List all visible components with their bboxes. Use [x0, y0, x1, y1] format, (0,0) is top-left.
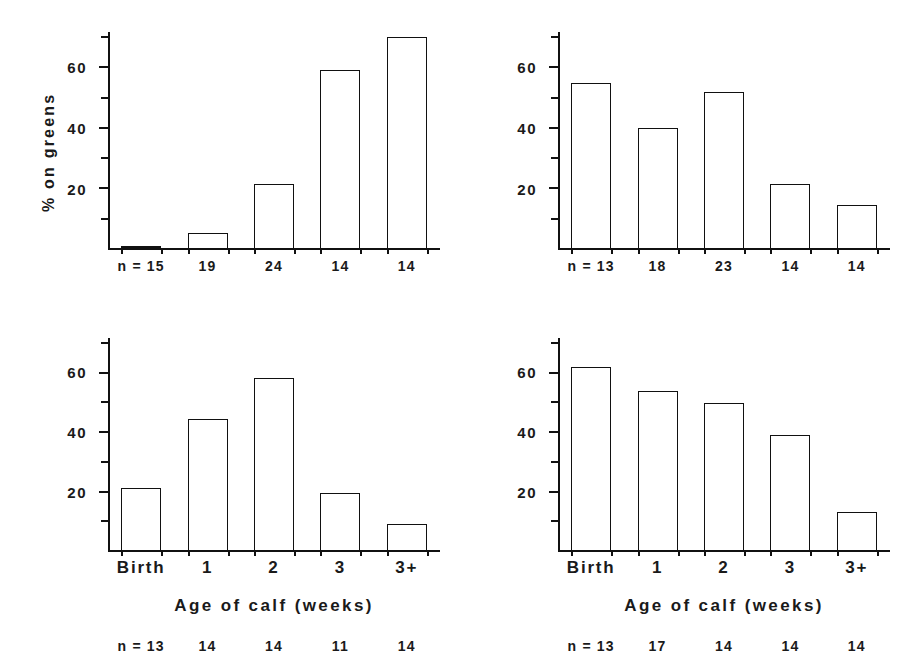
y-tick-30 [101, 461, 108, 463]
plot-area-sheltered: 204060 [558, 338, 890, 552]
bar-1 [638, 128, 678, 248]
x-category-label-2: 2 [268, 558, 279, 578]
x-tick-mark [188, 550, 190, 556]
y-tick-20: 20 [549, 187, 558, 189]
y-tick-label-20: 20 [517, 180, 537, 197]
panel-sheltered: % sheltered 204060 Birth1233+ Age of cal… [450, 300, 900, 668]
y-tick-label-20: 20 [517, 484, 537, 501]
bar-group-raised [558, 32, 890, 248]
x-tick-mark [427, 248, 429, 254]
y-tick-60: 60 [99, 66, 108, 68]
sample-size-3plus: 14 [848, 638, 866, 654]
y-axis-label-on-greens: % on greens [40, 93, 58, 212]
x-tick-mark [744, 550, 746, 556]
y-tick-label-40: 40 [517, 424, 537, 441]
sample-size-3plus: 14 [398, 258, 416, 274]
x-tick-mark [360, 248, 362, 254]
x-tick-mark [704, 550, 706, 556]
sample-size-3: 11 [332, 638, 349, 654]
x-tick-mark [387, 248, 389, 254]
sample-size-3: 14 [331, 258, 349, 274]
x-tick-mark [294, 248, 296, 254]
x-tick-mark [678, 550, 680, 556]
x-axis-line [108, 550, 440, 552]
panel-in-gulley: % in gulley 204060 Birth1233+ Age of cal… [0, 300, 450, 668]
x-tick-mark [877, 248, 879, 254]
y-tick-label-20: 20 [67, 484, 87, 501]
x-tick-mark [638, 550, 640, 556]
x-category-label-3plus: 3+ [845, 558, 868, 578]
sample-size-3: 14 [781, 258, 799, 274]
bar-1 [638, 391, 678, 550]
x-tick-mark [810, 550, 812, 556]
sample-size-2: 14 [715, 638, 733, 654]
x-tick-mark [877, 550, 879, 556]
bar-3 [320, 70, 360, 249]
sample-size-1: 18 [649, 258, 667, 274]
bar-1 [188, 233, 228, 248]
y-tick-60: 60 [549, 372, 558, 374]
x-category-label-3: 3 [785, 558, 796, 578]
x-tick-mark [678, 248, 680, 254]
x-tick-mark [228, 248, 230, 254]
y-tick-30 [101, 157, 108, 159]
bar-Birth [571, 367, 611, 550]
bar-2 [254, 184, 294, 249]
x-tick-mark [770, 550, 772, 556]
y-tick-40: 40 [549, 431, 558, 433]
sample-size-Birth: n = 13 [568, 638, 615, 654]
plot-area-on-greens: 204060 [108, 32, 440, 250]
panel-raised: % raised 204060 n = 1318231414 [450, 0, 900, 300]
bar-1 [188, 419, 228, 550]
x-category-label-3: 3 [335, 558, 346, 578]
y-tick-label-40: 40 [67, 119, 87, 136]
x-tick-mark [427, 550, 429, 556]
y-tick-40: 40 [99, 127, 108, 129]
x-tick-mark [320, 248, 322, 254]
x-tick-mark [188, 248, 190, 254]
y-tick-30 [551, 157, 558, 159]
sample-size-1: 19 [199, 258, 217, 274]
x-category-label-1: 1 [202, 558, 213, 578]
x-tick-mark [611, 550, 613, 556]
bar-2 [254, 378, 294, 550]
bar-3plus [387, 524, 427, 551]
x-tick-mark [121, 550, 123, 556]
y-tick-70 [101, 36, 108, 38]
sample-size-Birth: n = 13 [568, 258, 615, 274]
x-category-labels-sheltered: Birth1233+ [558, 558, 890, 580]
x-tick-mark [704, 248, 706, 254]
y-tick-70 [101, 342, 108, 344]
x-category-label-3plus: 3+ [395, 558, 418, 578]
y-tick-10 [101, 218, 108, 220]
x-category-label-Birth: Birth [567, 558, 616, 578]
y-tick-label-60: 60 [67, 364, 87, 381]
bar-group-in-gulley [108, 338, 440, 550]
y-tick-label-60: 60 [517, 58, 537, 75]
sample-size-2: 14 [265, 638, 283, 654]
sample-size-Birth: n = 13 [118, 638, 165, 654]
x-tick-mark [837, 248, 839, 254]
y-tick-50 [101, 401, 108, 403]
y-tick-50 [101, 97, 108, 99]
sample-size-3plus: 14 [398, 638, 416, 654]
bar-3 [770, 184, 810, 249]
sample-size-Birth: n = 15 [118, 258, 165, 274]
x-tick-mark [837, 550, 839, 556]
bar-2 [704, 92, 744, 248]
y-tick-30 [551, 461, 558, 463]
x-tick-mark [360, 550, 362, 556]
bar-Birth [121, 246, 161, 249]
y-tick-20: 20 [99, 187, 108, 189]
y-tick-label-20: 20 [67, 180, 87, 197]
x-tick-mark [810, 248, 812, 254]
sample-size-row-raised: n = 1318231414 [558, 258, 890, 278]
y-tick-10 [551, 218, 558, 220]
bar-3 [770, 435, 810, 550]
x-tick-mark [121, 248, 123, 254]
y-tick-10 [551, 520, 558, 522]
y-tick-label-60: 60 [67, 58, 87, 75]
bar-3 [320, 493, 360, 550]
x-category-label-2: 2 [718, 558, 729, 578]
y-tick-40: 40 [99, 431, 108, 433]
